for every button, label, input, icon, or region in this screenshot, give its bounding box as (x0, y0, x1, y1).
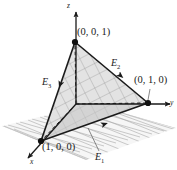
vertex-label-y: (0, 1, 0) (134, 75, 167, 86)
simplex-figure: z y x (0, 0, 1) (0, 1, 0) (1, 0, 0) E1 E… (0, 0, 177, 170)
vertex-label-x: (1, 0, 0) (42, 142, 75, 153)
edge-label-E2-sub: 2 (117, 63, 120, 70)
z-axis-label: z (67, 2, 70, 10)
edge-label-E1: E1 (95, 152, 104, 165)
vertex-dot-z (72, 39, 78, 45)
vertex-label-z: (0, 0, 1) (77, 27, 110, 38)
edge-label-E3: E3 (42, 77, 51, 90)
x-axis-label: x (30, 158, 33, 166)
edge-label-E3-sub: 3 (48, 82, 51, 89)
y-axis-label: y (170, 99, 173, 107)
vertex-dot-y (145, 100, 151, 106)
edge-label-E2: E2 (111, 58, 120, 71)
edge-label-E1-sub: 1 (101, 157, 104, 164)
leader-vertex-y (148, 89, 150, 100)
